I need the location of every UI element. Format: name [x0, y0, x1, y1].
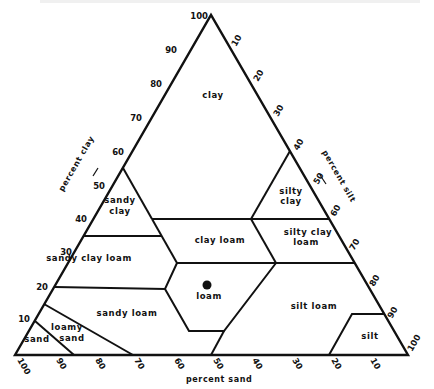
cutoff-text	[40, 0, 420, 3]
region-label-clay-loam: clay loam	[195, 235, 246, 245]
clay-tick-80: 80	[150, 79, 162, 89]
sand-tick-90: 90	[54, 356, 69, 371]
clay-tick-70: 70	[130, 113, 142, 123]
sample-point-marker	[203, 281, 212, 290]
sand-tick-30: 30	[290, 356, 305, 371]
silt-tick-70: 70	[347, 237, 362, 252]
sand-tick-80: 80	[93, 356, 108, 371]
sand-tick-10: 10	[368, 356, 383, 371]
silty-clay-left-boundary	[251, 151, 290, 219]
clay-axis-ticks: 10 20 30 40 50 60 70 80 90 100	[18, 11, 208, 324]
silt-tick-30: 30	[271, 103, 286, 118]
clay-axis-arrow-icon	[93, 168, 98, 176]
region-label-sandy-clay: sandy	[104, 195, 135, 205]
clay-tick-30: 30	[60, 247, 72, 257]
region-label-clay: clay	[202, 90, 223, 100]
clay-tick-40: 40	[75, 214, 87, 224]
region-label-silt-loam: silt loam	[291, 301, 338, 311]
region-label-silty-clay-loam: silty clay	[284, 227, 332, 237]
region-label-silty-clay-loam: loam	[293, 237, 319, 247]
region-label-sandy-clay: clay	[109, 206, 130, 216]
region-label-silty-clay: clay	[280, 196, 301, 206]
sand-tick-40: 40	[250, 356, 265, 371]
region-label-sandy-loam: sandy loam	[97, 308, 158, 318]
sand-tick-20: 20	[329, 356, 344, 371]
clay-tick-100: 100	[190, 11, 208, 21]
clay-tick-60: 60	[112, 147, 124, 157]
region-label-sand: sand	[24, 334, 49, 344]
sand-tick-100: 100	[15, 356, 33, 376]
silt-loam-left-boundary	[211, 331, 224, 355]
sand-axis-ticks: 100 90 80 70 60 50 40 30 20 10	[15, 356, 383, 376]
silt-tick-20: 20	[251, 68, 266, 83]
silt-tick-100: 100	[405, 333, 423, 353]
region-label-silty-clay: silty	[279, 186, 303, 196]
silt-tick-60: 60	[328, 203, 343, 218]
silt-tick-80: 80	[367, 273, 382, 288]
silt-tick-10: 10	[229, 33, 244, 48]
clay-tick-50: 50	[93, 181, 105, 191]
region-label-loam: loam	[196, 291, 222, 301]
sand-axis-label: percent sand	[186, 375, 252, 384]
silt-axis-label: percent silt	[320, 149, 357, 204]
soil-texture-triangle: clay sandy clay silty clay sandy clay lo…	[0, 0, 434, 389]
sand-tick-60: 60	[172, 356, 187, 371]
region-label-sandy-clay-loam: sandy clay loam	[46, 253, 132, 263]
region-label-silt: silt	[361, 331, 378, 341]
sandy-clay-loam-bottom-boundary	[55, 263, 177, 289]
silt-tick-50: 50	[311, 171, 326, 186]
clay-tick-10: 10	[18, 314, 30, 324]
region-label-loamy-sand: loamy	[51, 322, 83, 332]
clay-loam-left-boundary	[152, 219, 177, 263]
sand-tick-50: 50	[211, 356, 226, 371]
silt-tick-40: 40	[291, 137, 306, 152]
sand-tick-70: 70	[132, 356, 147, 371]
clay-tick-90: 90	[165, 45, 177, 55]
clay-tick-20: 20	[36, 282, 48, 292]
region-label-loamy-sand: sand	[59, 333, 84, 343]
silty-clay-loam-left-boundary	[251, 219, 276, 263]
clay-axis-label: percent clay	[57, 134, 96, 193]
